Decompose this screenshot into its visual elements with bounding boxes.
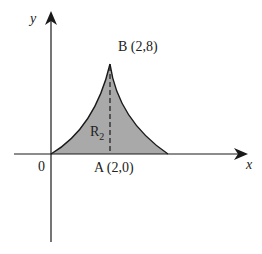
point-b-label: B (2,8) <box>118 40 158 54</box>
region-label: R2 <box>90 125 104 142</box>
region-label-subscript: 2 <box>99 131 104 142</box>
x-axis-label: x <box>246 158 252 172</box>
origin-label: 0 <box>38 160 45 174</box>
point-a-label: A (2,0) <box>94 161 134 175</box>
region-label-main: R <box>90 124 99 139</box>
y-axis-label: y <box>30 12 36 26</box>
